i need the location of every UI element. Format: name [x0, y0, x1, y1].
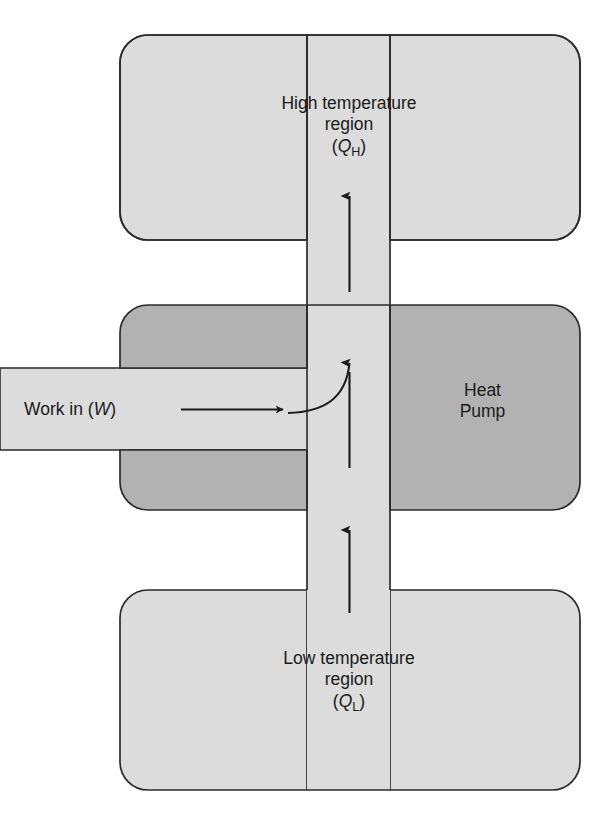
heat-pump-region-lower-shape — [120, 450, 307, 510]
paren-close: ) — [360, 136, 366, 156]
low-temperature-label-symbol: (QL) — [199, 691, 499, 715]
heat-pump-label-line1: Heat — [415, 380, 550, 401]
heat-pump-label-line2: Pump — [415, 401, 550, 422]
heat-symbol-q: Q — [338, 136, 352, 156]
heat-pump-label: Heat Pump — [415, 380, 550, 423]
work-label-suffix: ) — [110, 399, 116, 419]
work-input-label: Work in (W) — [24, 399, 214, 420]
paren-close: ) — [359, 691, 365, 711]
heat-symbol-q: Q — [339, 691, 353, 711]
heat-pump-diagram: High temperature region (QH) Low tempera… — [0, 0, 602, 813]
low-temperature-region-label: Low temperature region (QL) — [199, 648, 499, 715]
heat-symbol-subscript: H — [351, 144, 360, 158]
low-temperature-label-line1: Low temperature — [199, 648, 499, 669]
high-temperature-label-line2: region — [199, 114, 499, 135]
high-temperature-region-label: High temperature region (QH) — [199, 93, 499, 160]
high-temperature-label-symbol: (QH) — [199, 136, 499, 160]
work-label-prefix: Work in ( — [24, 399, 94, 419]
low-temperature-label-line2: region — [199, 669, 499, 690]
work-symbol-w: W — [94, 399, 111, 419]
high-temperature-label-line1: High temperature — [199, 93, 499, 114]
